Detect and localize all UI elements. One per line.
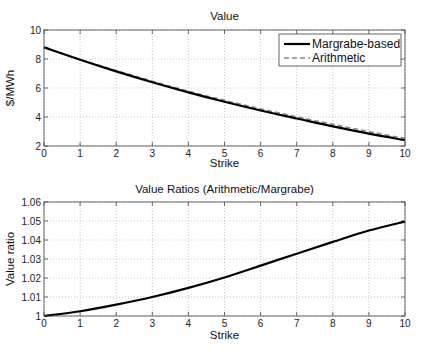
legend-label: Margrabe-based (312, 37, 400, 51)
x-tick-label: 3 (150, 148, 156, 159)
x-tick-label: 2 (113, 318, 119, 329)
y-tick-label: 6 (35, 83, 41, 94)
x-tick-label: 9 (366, 318, 372, 329)
x-tick-label: 10 (399, 318, 411, 329)
x-tick-label: 8 (330, 148, 336, 159)
x-tick-label: 7 (294, 318, 300, 329)
x-tick-label: 7 (294, 148, 300, 159)
y-axis-label: $/MWh (4, 70, 16, 106)
x-tick-label: 5 (222, 318, 228, 329)
chart-title: Value (210, 10, 239, 22)
x-tick-label: 0 (41, 148, 47, 159)
x-tick-label: 3 (150, 318, 156, 329)
chart-figure: 012345678910246810ValueStrike$/MWh012345… (0, 0, 427, 359)
x-tick-label: 4 (186, 148, 192, 159)
x-tick-label: 6 (258, 318, 264, 329)
x-tick-label: 6 (258, 148, 264, 159)
x-tick-label: 2 (113, 148, 119, 159)
y-tick-label: 10 (30, 25, 42, 36)
y-tick-label: 8 (35, 54, 41, 65)
y-tick-label: 1.02 (22, 273, 42, 284)
y-tick-label: 1 (35, 311, 41, 322)
x-axis-label: Strike (210, 157, 239, 169)
y-tick-label: 1.01 (22, 292, 42, 303)
y-tick-label: 1.06 (22, 197, 42, 208)
legend-label: Arithmetic (312, 51, 365, 65)
y-tick-label: 4 (35, 112, 41, 123)
chart-panel-1: 01234567891011.011.021.031.041.051.06Val… (4, 183, 411, 341)
x-tick-label: 4 (186, 318, 192, 329)
chart-title: Value Ratios (Arithmetic/Margrabe) (135, 183, 314, 195)
y-axis-label: Value ratio (4, 232, 16, 286)
x-tick-label: 8 (330, 318, 336, 329)
y-tick-label: 1.03 (22, 254, 42, 265)
x-tick-label: 10 (399, 148, 411, 159)
x-tick-label: 1 (77, 148, 83, 159)
legend: Margrabe-basedArithmetic (279, 34, 401, 66)
y-tick-label: 2 (35, 141, 41, 152)
x-tick-label: 9 (366, 148, 372, 159)
x-tick-label: 1 (77, 318, 83, 329)
x-tick-label: 0 (41, 318, 47, 329)
y-tick-label: 1.05 (22, 216, 42, 227)
x-axis-label: Strike (210, 329, 239, 341)
y-tick-label: 1.04 (22, 235, 42, 246)
